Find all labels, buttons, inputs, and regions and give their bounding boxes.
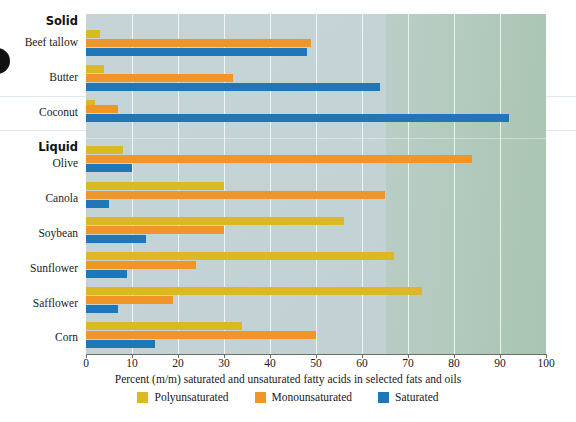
gridline-70: [408, 14, 409, 354]
group-separator: [86, 138, 546, 139]
legend-swatch-monounsaturated: [255, 392, 266, 403]
bar-corn-monounsaturated: [86, 331, 316, 339]
group-label-liquid: Liquid: [0, 140, 82, 154]
x-tick-label-80: 80: [434, 357, 474, 369]
gridline-50: [316, 14, 317, 354]
x-tick-label-90: 90: [480, 357, 520, 369]
plot-area: [86, 14, 546, 354]
bar-olive-saturated: [86, 164, 132, 172]
bar-olive-polyunsaturated: [86, 146, 123, 154]
bar-butter-saturated: [86, 83, 380, 91]
bar-sunflower-saturated: [86, 270, 127, 278]
chart-page: Solid Beef tallow Butter Coconut Liquid …: [0, 0, 576, 422]
bar-coconut-saturated: [86, 114, 509, 122]
bar-soybean-polyunsaturated: [86, 217, 344, 225]
legend-item-saturated[interactable]: Saturated: [378, 391, 438, 403]
plot-background-wash: [386, 14, 546, 354]
x-tick-label-0: 0: [66, 357, 106, 369]
category-label-corn: Corn: [0, 331, 82, 343]
x-axis-caption: Percent (m/m) saturated and unsaturated …: [0, 373, 576, 385]
bar-beef-tallow-monounsaturated: [86, 39, 311, 47]
bar-butter-monounsaturated: [86, 74, 233, 82]
category-label-safflower: Safflower: [0, 297, 82, 309]
gridline-40: [270, 14, 271, 354]
legend-label-monounsaturated: Monounsaturated: [272, 391, 352, 403]
category-label-sunflower: Sunflower: [0, 262, 82, 274]
x-tick-label-40: 40: [250, 357, 290, 369]
x-tick-label-50: 50: [296, 357, 336, 369]
bar-soybean-monounsaturated: [86, 226, 224, 234]
gridline-80: [454, 14, 455, 354]
category-label-olive: Olive: [0, 157, 82, 169]
bar-coconut-monounsaturated: [86, 105, 118, 113]
x-tick-label-20: 20: [158, 357, 198, 369]
bar-butter-polyunsaturated: [86, 65, 104, 73]
x-tick-label-100: 100: [526, 357, 566, 369]
bar-corn-saturated: [86, 340, 155, 348]
gridline-30: [224, 14, 225, 354]
bar-safflower-saturated: [86, 305, 118, 313]
x-tick-label-70: 70: [388, 357, 428, 369]
x-tick-label-60: 60: [342, 357, 382, 369]
legend-item-polyunsaturated[interactable]: Polyunsaturated: [137, 391, 228, 403]
legend-item-monounsaturated[interactable]: Monounsaturated: [255, 391, 352, 403]
bar-safflower-monounsaturated: [86, 296, 173, 304]
bar-sunflower-polyunsaturated: [86, 252, 394, 260]
bar-corn-polyunsaturated: [86, 322, 242, 330]
legend: Polyunsaturated Monounsaturated Saturate…: [0, 391, 576, 403]
bar-safflower-polyunsaturated: [86, 287, 422, 295]
gridline-60: [362, 14, 363, 354]
legend-swatch-polyunsaturated: [137, 392, 148, 403]
bar-beef-tallow-saturated: [86, 48, 307, 56]
category-label-beef-tallow: Beef tallow: [0, 36, 82, 48]
bar-canola-monounsaturated: [86, 191, 385, 199]
category-label-coconut: Coconut: [0, 106, 82, 118]
bar-sunflower-monounsaturated: [86, 261, 196, 269]
bar-soybean-saturated: [86, 235, 146, 243]
legend-label-saturated: Saturated: [395, 391, 438, 403]
category-label-soybean: Soybean: [0, 227, 82, 239]
x-tick-label-10: 10: [112, 357, 152, 369]
bar-canola-saturated: [86, 200, 109, 208]
gridline-90: [500, 14, 501, 354]
bar-olive-monounsaturated: [86, 155, 472, 163]
legend-label-polyunsaturated: Polyunsaturated: [154, 391, 228, 403]
x-tick-label-30: 30: [204, 357, 244, 369]
category-label-canola: Canola: [0, 192, 82, 204]
bar-canola-polyunsaturated: [86, 182, 224, 190]
category-label-butter: Butter: [0, 71, 82, 83]
group-label-solid: Solid: [0, 14, 82, 28]
legend-swatch-saturated: [378, 392, 389, 403]
bar-beef-tallow-polyunsaturated: [86, 30, 100, 38]
